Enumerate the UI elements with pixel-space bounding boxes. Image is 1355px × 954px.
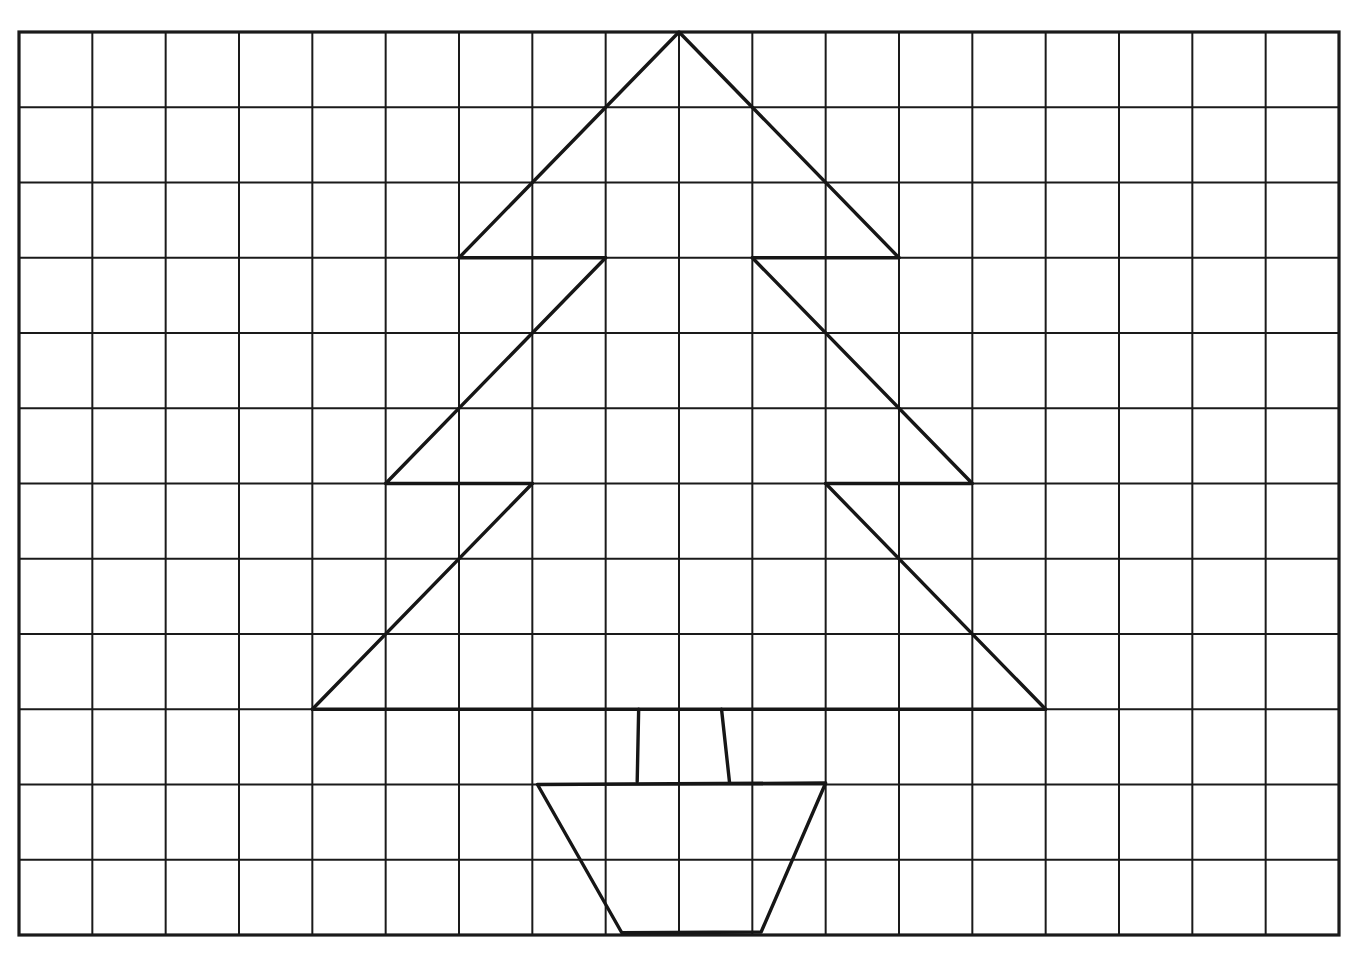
grid-paper-canvas [0, 0, 1355, 954]
christmas-tree-diagram [0, 0, 1355, 954]
trunk-left [637, 709, 638, 781]
paper-background [0, 0, 1355, 954]
